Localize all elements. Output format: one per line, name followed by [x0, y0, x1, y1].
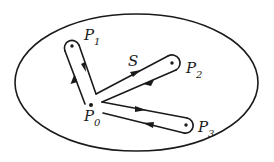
label-loop-s: S	[128, 52, 138, 70]
label-p2: P2	[185, 59, 202, 80]
point-p1-dot	[70, 44, 73, 47]
arrow-left-icon	[143, 122, 154, 128]
label-p1: P1	[83, 26, 100, 47]
label-p3: P3	[197, 118, 214, 139]
label-p0: P0	[83, 107, 101, 128]
loop-p1	[64, 40, 96, 104]
loop-p3	[102, 102, 193, 133]
region-ellipse	[15, 14, 258, 151]
arrow-right-icon	[135, 106, 146, 112]
point-p2-dot	[170, 61, 173, 64]
point-p3-dot	[184, 123, 187, 126]
loop-diagram: P0 P1 P2 P3 S	[0, 0, 274, 162]
